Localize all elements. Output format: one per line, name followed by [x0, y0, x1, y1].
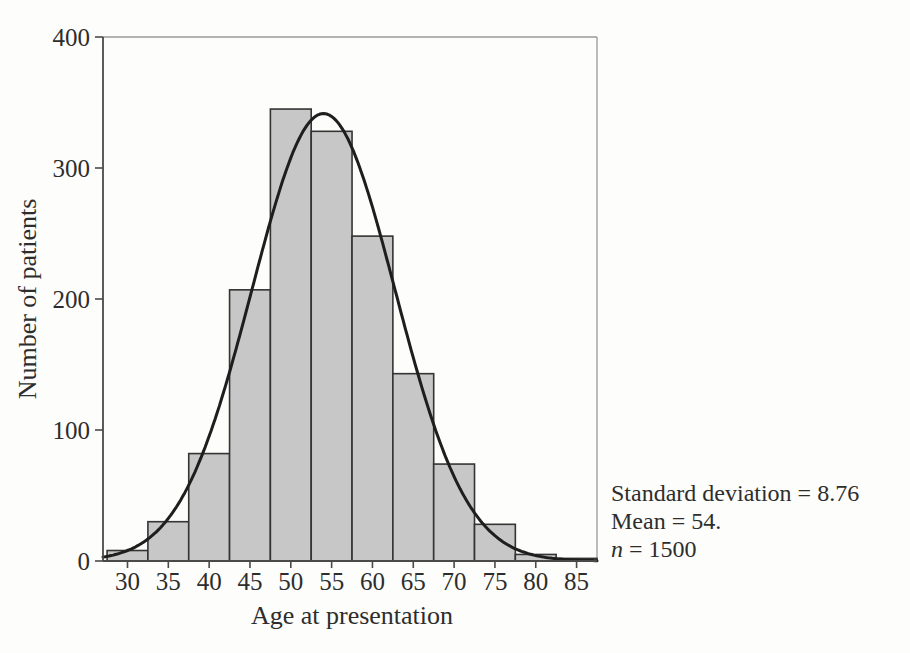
histogram-bar-45 [230, 290, 271, 561]
y-tick-label-200: 200 [53, 286, 91, 313]
x-tick-label-50: 50 [278, 568, 303, 595]
x-axis-title: Age at presentation [251, 601, 453, 630]
histogram-bar-35 [148, 522, 189, 561]
annotation-line-n: n = 1500 [611, 535, 859, 563]
histogram-bar-60 [352, 236, 393, 561]
annotation-line-mean: Mean = 54. [611, 507, 859, 535]
x-tick-label-30: 30 [115, 568, 140, 595]
x-tick-label-35: 35 [156, 568, 181, 595]
x-tick-label-60: 60 [360, 568, 385, 595]
y-tick-label-300: 300 [53, 155, 91, 182]
annotation-n-symbol: n [611, 536, 623, 562]
annotation-block: Standard deviation = 8.76 Mean = 54. n =… [611, 479, 859, 563]
x-tick-label-80: 80 [523, 568, 548, 595]
histogram-bar-55 [311, 131, 352, 561]
x-tick-label-65: 65 [401, 568, 426, 595]
x-tick-label-45: 45 [237, 568, 262, 595]
y-tick-label-0: 0 [78, 548, 91, 575]
annotation-line-sd: Standard deviation = 8.76 [611, 479, 859, 507]
x-tick-label-85: 85 [564, 568, 589, 595]
annotation-n-value: = 1500 [623, 536, 697, 562]
histogram-bar-75 [475, 524, 516, 561]
y-tick-label-400: 400 [53, 24, 91, 51]
y-axis-title: Number of patients [13, 199, 42, 400]
figure-canvas: 0100200300400303540455055606570758085Num… [0, 0, 910, 653]
x-tick-label-40: 40 [197, 568, 222, 595]
y-tick-label-100: 100 [53, 417, 91, 444]
x-tick-label-55: 55 [319, 568, 344, 595]
histogram-bar-50 [270, 109, 311, 561]
x-tick-label-70: 70 [442, 568, 467, 595]
x-tick-label-75: 75 [482, 568, 507, 595]
